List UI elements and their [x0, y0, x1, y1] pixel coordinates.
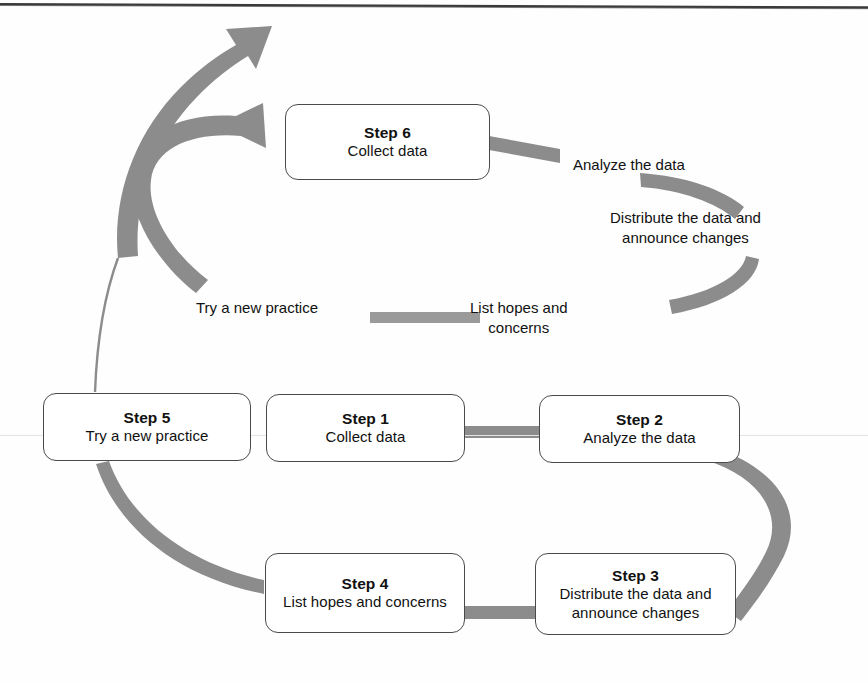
node-step-6-title: Step 6	[364, 123, 411, 142]
node-step-5-title: Step 5	[123, 408, 170, 427]
node-step-4-subtitle: List hopes and concerns	[283, 593, 447, 612]
connector-step4-to-step3	[462, 606, 538, 619]
connector-step1-to-step2	[463, 426, 542, 438]
connector-step6-to-analyze	[489, 136, 560, 163]
cycle-arrow-outward	[117, 26, 272, 258]
node-step-3-subtitle: Distribute the data and announce changes	[536, 585, 735, 622]
node-step-2-title: Step 2	[616, 410, 663, 429]
arc-label-list-hopes-and-concerns: List hopes and concerns	[470, 298, 568, 337]
diagram-canvas: Step 6 Collect data Step 5 Try a new pra…	[0, 0, 868, 682]
node-step-2-subtitle: Analyze the data	[583, 429, 696, 448]
arc-label-distribute-the-data: Distribute the data and announce changes	[610, 208, 761, 247]
connector-step5-to-step4	[96, 461, 264, 594]
node-step-3-title: Step 3	[612, 566, 659, 585]
node-step-1-subtitle: Collect data	[326, 428, 406, 447]
node-step-5-subtitle: Try a new practice	[86, 427, 209, 446]
node-step-3[interactable]: Step 3 Distribute the data and announce …	[535, 553, 736, 635]
node-step-1-title: Step 1	[342, 409, 389, 428]
node-step-2[interactable]: Step 2 Analyze the data	[539, 395, 740, 463]
node-step-5[interactable]: Step 5 Try a new practice	[43, 393, 251, 461]
node-step-6-subtitle: Collect data	[348, 142, 428, 161]
node-step-4[interactable]: Step 4 List hopes and concerns	[265, 553, 465, 633]
cycle-tail-line	[95, 258, 118, 392]
node-step-1[interactable]: Step 1 Collect data	[266, 394, 465, 462]
arc-label-try-a-new-practice: Try a new practice	[196, 298, 318, 318]
node-step-6[interactable]: Step 6 Collect data	[285, 104, 490, 180]
arc-list-to-try	[370, 312, 480, 323]
arc-distribute-to-list	[669, 256, 759, 314]
arc-label-analyze-the-data: Analyze the data	[573, 155, 685, 175]
node-step-4-title: Step 4	[341, 574, 388, 593]
